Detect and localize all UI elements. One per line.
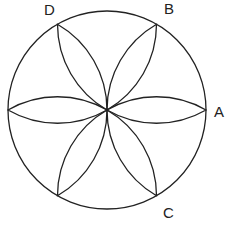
rosette-diagram: A B C D (0, 0, 229, 225)
label-a: A (214, 103, 224, 120)
label-c: C (163, 204, 174, 221)
label-b: B (164, 0, 174, 17)
label-d: D (44, 1, 55, 18)
petal (8, 97, 107, 124)
petals (8, 24, 206, 195)
petal (107, 97, 206, 124)
